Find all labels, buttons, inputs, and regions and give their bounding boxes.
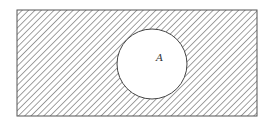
venn-diagram: A (0, 0, 270, 124)
set-a-circle (117, 29, 187, 99)
set-a-label: A (155, 52, 163, 63)
